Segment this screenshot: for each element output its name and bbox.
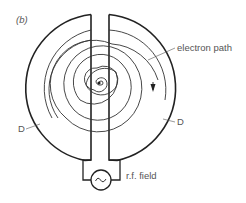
electron-spiral [44, 30, 166, 132]
label-electron-path: electron path [177, 43, 232, 53]
leader-electron-path [148, 48, 175, 60]
label-dee-right: D [177, 117, 184, 127]
dee-left [26, 15, 91, 161]
label-dee-left: D [18, 124, 25, 134]
lead-left [83, 160, 91, 180]
cyclotron-diagram [0, 0, 246, 203]
panel-label: (b) [16, 15, 28, 25]
label-rf-field: r.f. field [126, 171, 157, 181]
ion-source-dot [97, 81, 100, 84]
